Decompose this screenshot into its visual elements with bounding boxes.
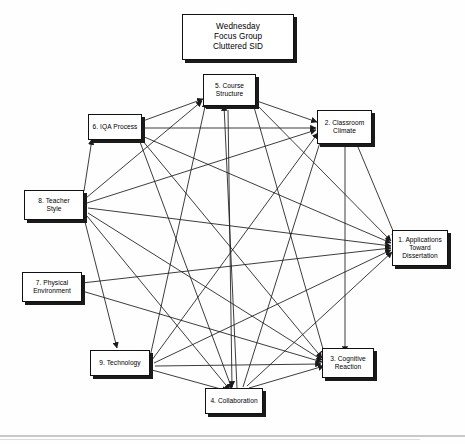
edge-8-to-2 bbox=[87, 130, 316, 203]
node-applications-toward-dissertation-label: 1. Applications Toward Dissertation bbox=[396, 236, 444, 260]
node-collaboration-label: 4. Collaboration bbox=[208, 397, 259, 405]
edge-6-to-4 bbox=[140, 142, 232, 389]
edge-2-to-1 bbox=[358, 147, 396, 238]
influence-diagram-edges bbox=[0, 0, 465, 444]
edge-6-to-5 bbox=[140, 99, 203, 122]
edge-8-to-9 bbox=[84, 218, 117, 348]
node-applications-toward-dissertation[interactable]: 1. Applications Toward Dissertation bbox=[392, 230, 448, 266]
page-edge-line bbox=[0, 435, 465, 437]
node-classroom-climate[interactable]: 2. Classroom Climate bbox=[317, 110, 372, 144]
node-technology-label: 9. Technology bbox=[97, 359, 142, 367]
node-iqa-process[interactable]: 6. IQA Process bbox=[88, 114, 142, 140]
edge-9-to-5 bbox=[150, 102, 206, 357]
node-physical-environment[interactable]: 7. Physical Environment bbox=[22, 272, 82, 302]
edge-8-to-3 bbox=[88, 213, 322, 360]
page-edge-line-secondary bbox=[0, 439, 420, 440]
edge-4-to-2 bbox=[243, 136, 322, 387]
node-teacher-style[interactable]: 8. Teacher Style bbox=[24, 190, 84, 220]
edge-9-to-2 bbox=[152, 133, 318, 360]
edge-8-to-6 bbox=[84, 139, 92, 191]
diagram-page: Wednesday Focus Group Cluttered SID 5. C… bbox=[0, 0, 465, 444]
node-classroom-climate-label: 2. Classroom Climate bbox=[323, 119, 367, 135]
node-course-structure[interactable]: 5. Course Structure bbox=[203, 74, 256, 106]
title-box: Wednesday Focus Group Cluttered SID bbox=[182, 14, 294, 60]
title-box-label: Wednesday Focus Group Cluttered SID bbox=[211, 22, 265, 52]
edge-6-to-3 bbox=[142, 140, 322, 358]
edge-9-to-3 bbox=[155, 364, 321, 366]
node-teacher-style-label: 8. Teacher Style bbox=[36, 197, 71, 213]
node-cognitive-reaction-label: 3. Cognitive Reaction bbox=[328, 355, 368, 371]
node-technology[interactable]: 9. Technology bbox=[90, 350, 150, 376]
node-cognitive-reaction[interactable]: 3. Cognitive Reaction bbox=[322, 348, 374, 378]
edge-4-to-3 bbox=[249, 366, 324, 388]
edge-9-to-1 bbox=[154, 250, 391, 363]
node-physical-environment-label: 7. Physical Environment bbox=[31, 279, 73, 295]
node-collaboration[interactable]: 4. Collaboration bbox=[205, 388, 263, 414]
node-iqa-process-label: 6. IQA Process bbox=[91, 123, 140, 131]
node-course-structure-label: 5. Course Structure bbox=[213, 82, 246, 98]
